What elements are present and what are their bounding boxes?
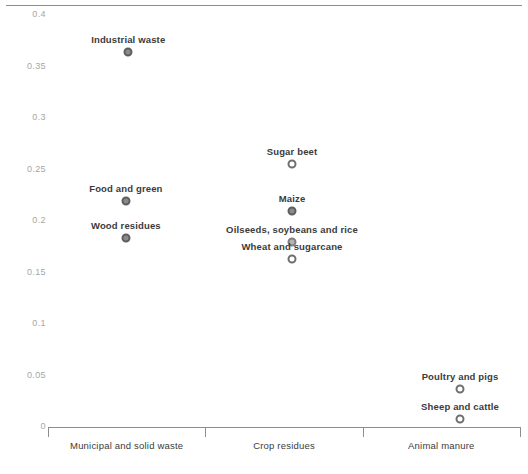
plot-area: Industrial wasteFood and greenWood resid… <box>48 14 520 426</box>
point-label: Food and green <box>89 183 162 194</box>
y-axis-tick-labels: 0.40.350.30.250.20.150.10.050 <box>0 0 46 474</box>
x-axis-line <box>48 427 520 428</box>
y-axis-tick-label: 0.3 <box>2 112 46 122</box>
top-divider-rule <box>6 5 522 6</box>
data-point-marker[interactable] <box>288 206 297 215</box>
y-axis-tick-label: 0.35 <box>2 61 46 71</box>
data-point-marker[interactable] <box>124 48 133 57</box>
y-axis-tick-label: 0 <box>2 421 46 431</box>
x-axis-tick <box>520 427 521 437</box>
data-point-marker[interactable] <box>288 160 297 169</box>
y-axis-tick-label: 0.4 <box>2 9 46 19</box>
point-label: Poultry and pigs <box>422 371 499 382</box>
point-label: Industrial waste <box>91 34 165 45</box>
x-axis-tick <box>363 427 364 437</box>
x-axis-tick <box>205 427 206 437</box>
y-axis-tick-label: 0.15 <box>2 267 46 277</box>
data-point-marker[interactable] <box>456 414 465 423</box>
point-label: Sugar beet <box>267 146 318 157</box>
y-axis-tick-label: 0.2 <box>2 215 46 225</box>
point-label: Maize <box>279 193 306 204</box>
scatter-chart: 0.40.350.30.250.20.150.10.050 Industrial… <box>0 0 528 474</box>
point-label: Wood residues <box>91 220 161 231</box>
y-axis-tick-label: 0.1 <box>2 318 46 328</box>
y-axis-tick-label: 0.25 <box>2 164 46 174</box>
data-point-marker[interactable] <box>288 255 297 264</box>
y-axis-tick-label: 0.05 <box>2 370 46 380</box>
data-point-marker[interactable] <box>456 384 465 393</box>
data-point-marker[interactable] <box>121 233 130 242</box>
data-point-marker[interactable] <box>121 197 130 206</box>
point-label: Wheat and sugarcane <box>241 241 342 252</box>
point-label: Sheep and cattle <box>421 401 499 412</box>
x-axis-category-label: Animal manure <box>408 440 475 451</box>
point-label: Oilseeds, soybeans and rice <box>226 224 358 235</box>
x-axis-category-label: Municipal and solid waste <box>70 440 183 451</box>
x-axis-category-label: Crop residues <box>253 440 315 451</box>
x-axis-tick <box>48 427 49 437</box>
